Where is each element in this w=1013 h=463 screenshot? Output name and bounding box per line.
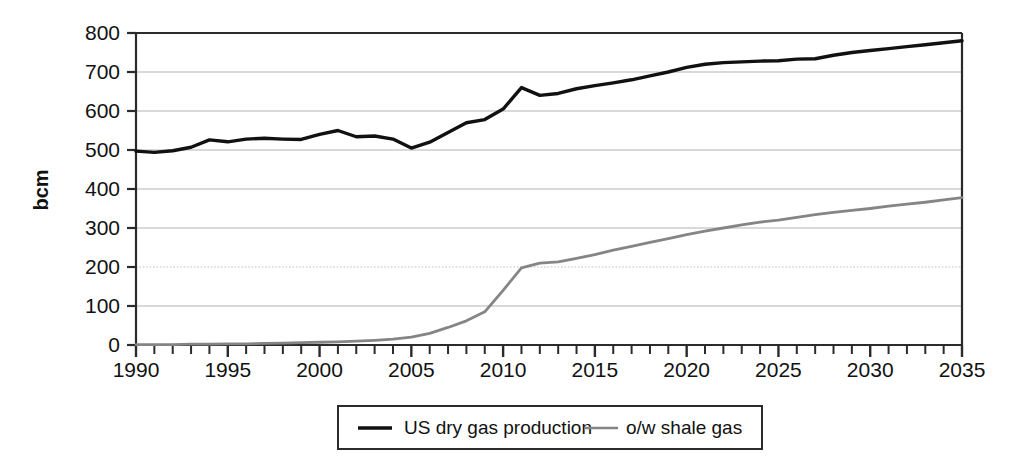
- chart-legend: US dry gas productiono/w shale gas: [338, 406, 762, 449]
- x-tick-label-2030: 2030: [847, 358, 894, 381]
- x-tick-label-2005: 2005: [388, 358, 435, 381]
- gridlines: [136, 33, 962, 306]
- x-tick-label-2000: 2000: [296, 358, 343, 381]
- x-tick-label-2010: 2010: [480, 358, 527, 381]
- y-tick-label-0: 0: [108, 333, 120, 356]
- x-tick-label-2015: 2015: [572, 358, 619, 381]
- line-chart: 0100200300400500600700800 19901995200020…: [0, 0, 1013, 463]
- y-tick-label-800: 800: [85, 21, 120, 44]
- series-line-us-dry-gas-production: [136, 41, 962, 153]
- y-axis-title: bcm: [30, 169, 52, 210]
- x-axis: 1990199520002005201020152020202520302035: [113, 345, 986, 381]
- y-tick-label-200: 200: [85, 255, 120, 278]
- y-tick-label-400: 400: [85, 177, 120, 200]
- legend-label-1: o/w shale gas: [626, 417, 742, 438]
- y-axis: 0100200300400500600700800: [85, 21, 136, 356]
- x-tick-label-1995: 1995: [204, 358, 251, 381]
- y-tick-label-100: 100: [85, 294, 120, 317]
- chart-figure: 0100200300400500600700800 19901995200020…: [0, 0, 1013, 463]
- x-tick-label-2025: 2025: [755, 358, 802, 381]
- series-line-shale-gas: [136, 198, 962, 345]
- legend-label-0: US dry gas production: [404, 417, 592, 438]
- y-tick-label-600: 600: [85, 99, 120, 122]
- x-tick-label-2020: 2020: [663, 358, 710, 381]
- x-tick-label-1990: 1990: [113, 358, 160, 381]
- data-series-layer: [136, 41, 962, 345]
- y-tick-label-300: 300: [85, 216, 120, 239]
- y-tick-label-500: 500: [85, 138, 120, 161]
- x-tick-label-2035: 2035: [939, 358, 986, 381]
- y-tick-label-700: 700: [85, 60, 120, 83]
